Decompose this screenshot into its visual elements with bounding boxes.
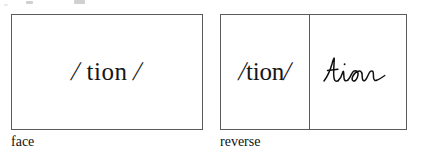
face-card-caption: face [11,133,34,151]
reverse-card[interactable]: /tion/ tion [220,14,407,130]
face-card-prompt-body: tion [80,58,134,85]
reverse-card-caption: reverse [220,133,260,151]
reverse-card-prompt: /tion/ [239,58,292,85]
reverse-card-prompt-cell[interactable]: /tion/ [221,15,310,129]
reverse-card-prompt-body: tion [246,58,284,85]
scan-artifacts [0,0,426,7]
reverse-card-group: /tion/ tion [220,14,407,130]
scan-speck [74,0,85,4]
face-card[interactable]: / tion / [11,14,203,130]
face-card-prompt: / tion / [72,58,142,85]
handwritten-answer-cursive: tion [321,53,395,93]
reverse-card-answer-cell[interactable]: tion [310,15,406,129]
scan-speck [26,1,33,4]
face-card-group: / tion / [11,14,203,130]
scan-speck [4,4,8,6]
